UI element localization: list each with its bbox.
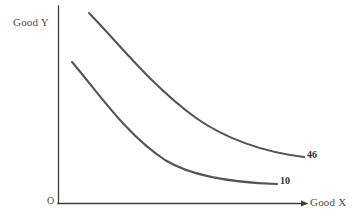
indifference-curve-chart: Good Y Good X O 46 10	[0, 0, 360, 220]
y-axis-label: Good Y	[13, 16, 49, 28]
indifference-curve-46	[89, 13, 304, 157]
axes-group	[58, 6, 309, 206]
x-axis-arrowhead	[301, 201, 309, 207]
origin-label: O	[47, 195, 54, 206]
x-axis-label: Good X	[310, 196, 346, 208]
curve-label-10: 10	[280, 175, 290, 186]
chart-canvas	[0, 0, 360, 220]
curves-group	[72, 13, 304, 184]
curve-label-46: 46	[307, 149, 317, 160]
indifference-curve-10	[72, 62, 277, 184]
